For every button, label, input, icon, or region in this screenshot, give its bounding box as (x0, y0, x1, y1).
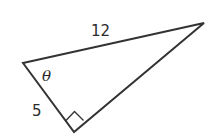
angle-theta-label: θ (42, 67, 51, 85)
short-leg-label: 5 (32, 102, 42, 120)
right-angle-marker (66, 112, 84, 122)
hypotenuse-label: 12 (91, 22, 110, 40)
right-triangle-diagram: 12 5 θ (0, 0, 213, 138)
